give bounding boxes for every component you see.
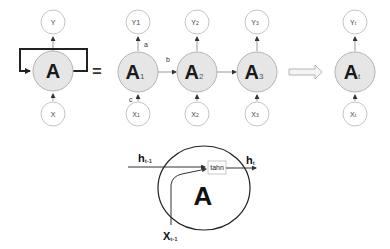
cell-detail-label: A [194, 181, 213, 211]
folded-rnn: Y A X [20, 10, 87, 126]
unrolled-step-t: Yt At Xt [335, 10, 375, 126]
h-prev-label: ht-1 [138, 152, 153, 164]
edge-label-a: a [144, 41, 148, 48]
output-label-y3: Y3 [251, 19, 259, 26]
unrolled-step-2: Y2 A2 X2 [177, 10, 236, 126]
equals-sign: = [92, 63, 101, 80]
rnn-diagram: Y A X = Y1 a A1 b c X1 Y2 A2 X2 [0, 0, 390, 249]
cell-label: A [46, 60, 60, 82]
input-label: X [51, 111, 56, 118]
output-label-yt: Yt [350, 19, 357, 26]
input-label-x1: X1 [132, 111, 140, 118]
h-out-label: ht [246, 154, 255, 166]
output-label: Y [51, 19, 56, 26]
input-label-xt: Xt [350, 111, 357, 118]
input-label-x3: X3 [251, 111, 259, 118]
output-label-y1: Y1 [131, 18, 141, 27]
input-label-x2: X2 [191, 111, 199, 118]
unrolled-step-1: Y1 a A1 b c X1 [118, 10, 176, 126]
tahn-label: tahn [210, 164, 224, 171]
cell-detail: ht-1 tahn ht Xt-1 A [128, 146, 256, 242]
edge-label-c: c [129, 96, 133, 103]
continuation-arrow-icon [289, 65, 322, 79]
edge-label-b: b [166, 56, 170, 63]
x-input-label: Xt-1 [163, 230, 178, 242]
output-label-y2: Y2 [191, 19, 199, 26]
unrolled-step-3: Y3 A3 X3 [237, 10, 277, 126]
